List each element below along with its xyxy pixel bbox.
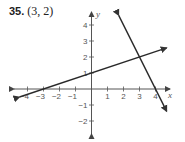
x-tick-label: 2 — [121, 92, 126, 101]
y-tick-label: 1 — [83, 69, 88, 78]
y-tick-label: −1 — [78, 101, 88, 110]
plot-line-2 — [119, 15, 167, 111]
x-tick-label: 1 — [105, 92, 110, 101]
y-tick-label: −2 — [78, 117, 88, 126]
x-tick-label: 3 — [137, 92, 142, 101]
x-tick-label: −2 — [52, 92, 62, 101]
x-axis-label: x — [167, 90, 172, 100]
y-tick-label: 3 — [83, 37, 88, 46]
y-tick-label: 4 — [83, 21, 88, 30]
plot-line-1 — [20, 48, 167, 97]
x-tick-label: −1 — [68, 92, 78, 101]
y-tick-label: 2 — [83, 53, 88, 62]
y-axis-label: y — [95, 9, 100, 19]
x-tick-label: −3 — [36, 92, 46, 101]
coordinate-plot: −4−3−2−11234−2−11234 x y — [0, 0, 185, 142]
